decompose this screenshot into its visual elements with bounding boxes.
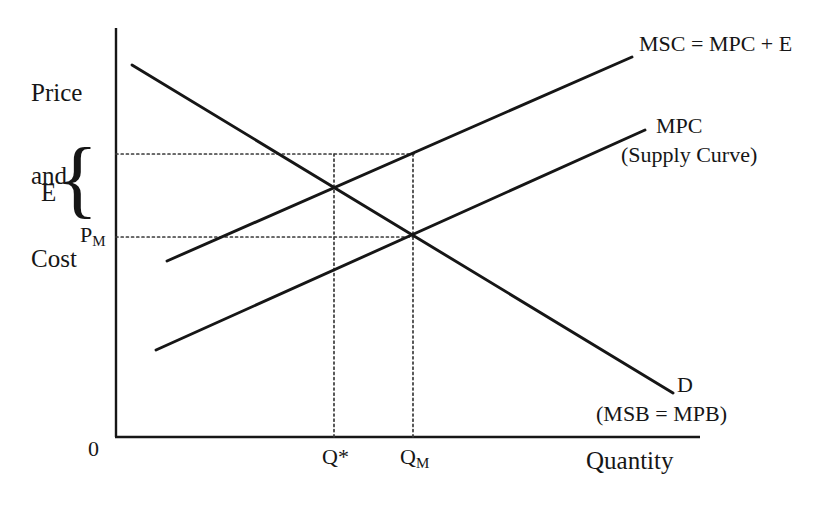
y-value-label-pm-sub: M [92, 233, 105, 249]
y-value-label-pm: PM [80, 224, 106, 246]
x-tick-label-q-market: QM [400, 446, 429, 468]
curve-msc [167, 57, 632, 261]
curve-mpc [156, 130, 645, 350]
external-cost-label: E [41, 180, 56, 205]
externality-diagram: Price and Cost E { PM 0 Q* QM Quantity M… [0, 0, 827, 507]
y-value-label-pm-base: P [80, 222, 92, 247]
curve-label-demand: D [677, 374, 693, 396]
x-axis-title: Quantity [586, 448, 674, 473]
x-tick-q-market-sub: M [416, 455, 429, 471]
origin-label: 0 [88, 438, 99, 460]
x-tick-q-star-base: Q [322, 444, 338, 469]
external-cost-brace: { [57, 135, 98, 221]
curve-label-mpc-note: (Supply Curve) [621, 144, 757, 166]
curve-label-mpc: MPC [656, 115, 702, 137]
curve-label-msc: MSC = MPC + E [639, 33, 792, 55]
y-axis-title-line-1: Price [31, 80, 82, 105]
x-tick-label-q-star: Q* [322, 446, 349, 468]
diagram-canvas [0, 0, 827, 507]
curve-label-demand-note: (MSB = MPB) [596, 403, 727, 425]
x-tick-q-star-sup: * [338, 444, 349, 469]
y-axis-title-line-3: Cost [31, 246, 82, 271]
x-tick-q-market-base: Q [400, 444, 416, 469]
curve-demand [132, 65, 673, 393]
